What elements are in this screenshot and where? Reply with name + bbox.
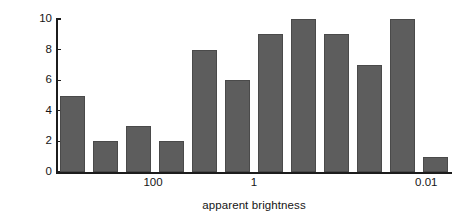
y-axis-tick-labels: 0246810 [24, 0, 52, 223]
bar [258, 34, 284, 172]
y-axis-tick-label: 6 [26, 74, 52, 86]
bars-layer [56, 19, 452, 172]
bar [291, 19, 317, 172]
x-axis-tick-label: 0.01 [415, 176, 437, 189]
bar [93, 141, 119, 172]
bar [225, 80, 251, 172]
bar [159, 141, 185, 172]
y-axis-tick-label: 2 [26, 135, 52, 147]
x-axis-title: apparent brightness [56, 199, 452, 211]
y-axis-tick-label: 8 [26, 44, 52, 56]
bar [423, 157, 449, 172]
y-axis-tick-label: 0 [26, 166, 52, 178]
bar [60, 96, 86, 173]
bar [126, 126, 152, 172]
bar [357, 65, 383, 172]
x-axis-tick-labels: 10010.01 [56, 176, 452, 192]
bar [192, 50, 218, 172]
x-axis-tick-label: 100 [143, 176, 162, 189]
bar [390, 19, 416, 172]
y-axis-tick-label: 10 [26, 13, 52, 25]
histogram-figure: number of stars 0246810 10010.01 apparen… [0, 0, 464, 223]
x-axis-tick-label: 1 [251, 176, 257, 189]
bar [324, 34, 350, 172]
y-axis-tick-label: 4 [26, 105, 52, 117]
